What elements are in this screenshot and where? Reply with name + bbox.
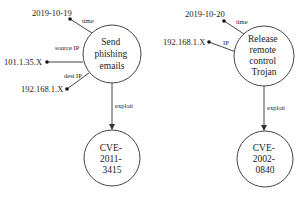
attribute-value-time: 2019-10-19 [32,8,72,18]
event-graph-diagram: 2019-10-19 101.1.35.X 192.168.1.X time s… [0,0,302,198]
graph-left: 2019-10-19 101.1.35.X 192.168.1.X time s… [4,8,141,186]
attribute-value-ip: 192.168.1.X [163,37,205,47]
edge-label-exploit-right: exploit [267,104,285,111]
attribute-value-time: 2019-10-20 [185,9,225,19]
attribute-value-source-ip: 101.1.35.X [4,57,42,67]
edge-label-exploit-left: exploit [115,102,133,109]
attribute-dot-dest-ip [65,87,69,91]
attribute-value-dest-ip: 192.168.1.X [21,84,63,94]
edge-label-time: time [82,17,94,24]
attribute-dot-ip [207,40,211,44]
edge-label-source-ip: source IP [55,44,80,51]
attribute-dot-time [222,19,226,23]
attribute-dot-source-ip [45,60,49,64]
edge-label-dest-ip: dest IP [64,72,82,79]
edge-label-ip: IP [223,39,229,46]
cve-node-label: CVE- 2002- 0840 [253,143,278,175]
edge-label-time: time [236,18,248,25]
graph-right: 2019-10-20 192.168.1.X time IP Release r… [163,9,294,187]
cve-node-label: CVE- 2011- 3415 [100,143,125,175]
event-node-label: Release remote control Trojan [248,34,280,77]
